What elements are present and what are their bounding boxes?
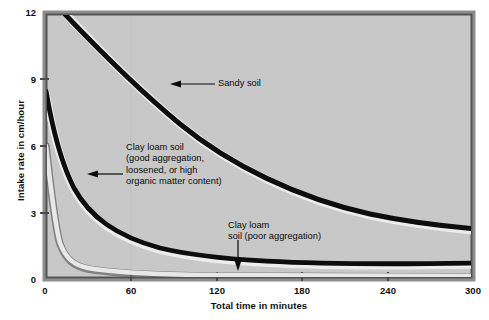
annotation-sandy-soil: Sandy soil	[218, 78, 261, 89]
annotation-clay-loam-poor-aggregation: Clay loam soil (poor aggregation)	[228, 220, 321, 243]
annotation-clay-loam-good-aggregation: Clay loam soil (good aggregation, loosen…	[126, 142, 222, 188]
plot-canvas	[0, 0, 489, 320]
intake-rate-chart: Intake rate in cm/hour Total time in min…	[0, 0, 489, 320]
